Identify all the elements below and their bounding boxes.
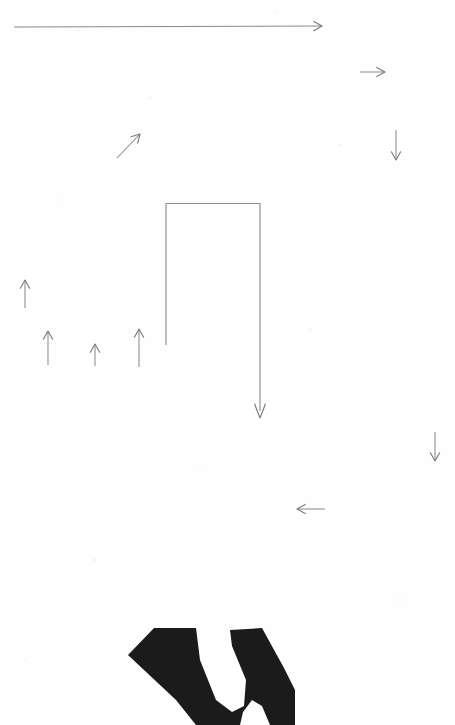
short-right-arrow-top	[360, 67, 385, 76]
paper-texture	[24, 11, 401, 661]
up-arrow-left-fourth	[134, 329, 143, 367]
up-arrow-left-third	[90, 344, 99, 366]
long-horizontal-arrow	[14, 21, 322, 30]
down-arrow-lower-right	[430, 432, 439, 461]
diagonal-up-right-arrow	[117, 134, 140, 158]
down-arrow-upper-right	[391, 130, 400, 160]
scanned-page: Scanned page with hand-drawn direction a…	[0, 0, 455, 725]
up-arrow-left-first	[20, 280, 29, 308]
left-arrow-lower	[297, 504, 325, 513]
large-black-w-glyph	[128, 628, 295, 725]
up-arrow-left-second	[43, 331, 52, 365]
staple-bracket-with-down-arrow	[166, 204, 265, 419]
page-ink-layer	[0, 0, 455, 725]
